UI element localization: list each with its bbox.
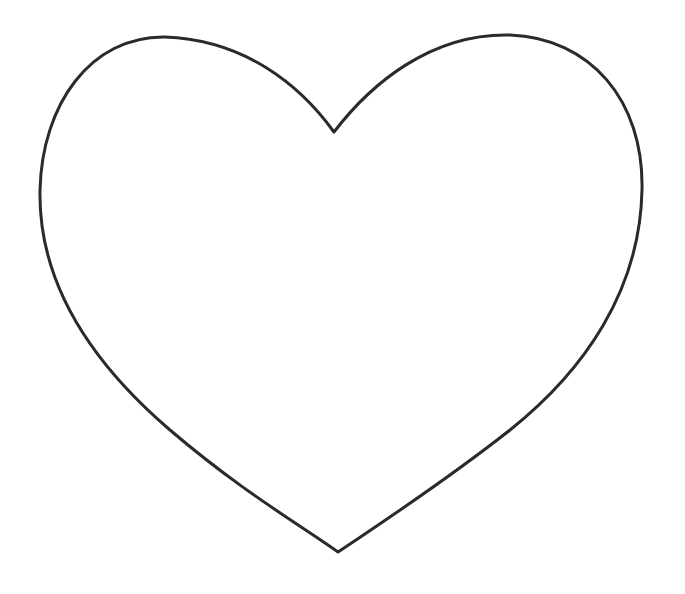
canvas xyxy=(0,0,685,594)
heart-outline xyxy=(40,35,642,552)
heart-icon xyxy=(0,0,685,594)
